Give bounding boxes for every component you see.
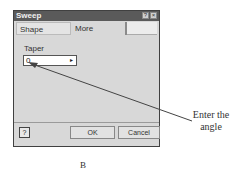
annotation-text: Enter the angle	[182, 109, 240, 133]
pointer-arrow-icon	[0, 0, 240, 177]
annotation-line-2: angle	[182, 121, 240, 133]
figure-caption: B	[80, 160, 86, 170]
annotation-line-1: Enter the	[182, 109, 240, 121]
